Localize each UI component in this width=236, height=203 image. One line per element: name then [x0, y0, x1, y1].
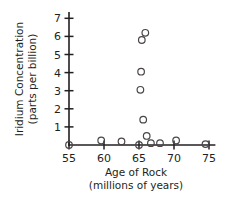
data-point-9 — [143, 133, 150, 140]
y-tick-label-3: 3 — [54, 85, 61, 98]
x-tick-label-55: 55 — [62, 152, 76, 165]
data-point-8 — [142, 29, 149, 36]
y-tick-label-7: 7 — [54, 12, 61, 25]
scatter-plot-figure: 5560657075 1234567 Age of Rock (millions… — [0, 0, 236, 203]
x-tick-label-75: 75 — [202, 152, 216, 165]
data-point-2 — [118, 138, 125, 145]
y-tick-label-4: 4 — [54, 67, 61, 80]
y-tick-label-6: 6 — [54, 30, 61, 43]
y-axis-title: Iridium Concentration (parts per billion… — [13, 4, 39, 154]
y-tick-labels-group: 1234567 — [54, 12, 61, 134]
data-point-5 — [138, 68, 145, 75]
x-tick-label-60: 60 — [97, 152, 111, 165]
data-point-4 — [137, 86, 144, 93]
x-tick-labels-group: 5560657075 — [62, 152, 216, 165]
data-point-6 — [139, 37, 146, 44]
y-tick-label-2: 2 — [54, 103, 61, 116]
tick-marks-group — [65, 18, 210, 149]
data-point-7 — [140, 116, 147, 123]
x-tick-label-70: 70 — [167, 152, 181, 165]
data-points-group — [66, 29, 209, 148]
x-axis-title: Age of Rock (millions of years) — [56, 166, 216, 192]
y-tick-label-5: 5 — [54, 49, 61, 62]
x-tick-label-65: 65 — [132, 152, 146, 165]
y-axis-title-line-2: (parts per billion) — [26, 4, 39, 154]
data-point-13 — [202, 141, 209, 148]
data-point-1 — [98, 137, 105, 144]
y-axis-title-line-1: Iridium Concentration — [13, 4, 26, 154]
y-tick-label-1: 1 — [54, 121, 61, 134]
x-axis-title-line-2: (millions of years) — [56, 179, 216, 192]
data-point-12 — [173, 137, 180, 144]
x-axis-title-line-1: Age of Rock — [56, 166, 216, 179]
